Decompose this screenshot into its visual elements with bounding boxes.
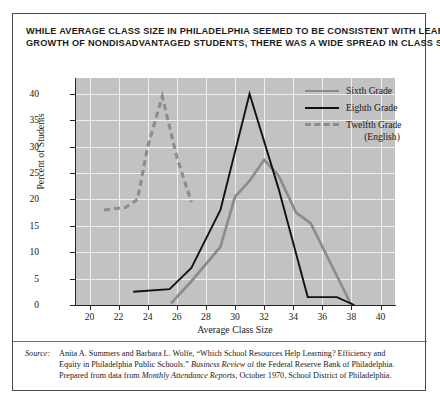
y-axis-tick-label: 30 [0,141,39,152]
legend-item: Eighth Grade [305,99,427,116]
source-text: Anita A. Summers and Barbara L. Wolfe, “… [59,348,394,382]
y-axis-tick-label: 5 [0,273,39,284]
x-axis-tick-label: 22 [104,311,134,322]
x-axis-tick [293,306,294,310]
chart-title-line-1: WHILE AVERAGE CLASS SIZE IN PHILADELPHIA… [26,25,418,37]
chart-area: 0510152025303540 2022242628303234363840 … [13,60,427,336]
series-line [104,96,191,210]
source-line-1: Anita A. Summers and Barbara L. Wolfe, “… [59,348,394,359]
x-axis-tick [322,306,323,310]
x-axis-tick-label: 34 [278,311,308,322]
x-axis-tick-label: 20 [75,311,105,322]
source-line-3: Prepared from data from Monthly Attendan… [59,370,394,381]
legend-item-label: Eighth Grade [346,102,397,113]
x-axis-tick-label: 26 [162,311,192,322]
legend: Sixth GradeEighth GradeTwelfth Grade(Eng… [305,82,427,142]
x-axis-tick [381,306,382,310]
y-axis-tick-label: 25 [0,167,39,178]
legend-item-label: Sixth Grade [346,85,392,96]
source-label: Source: [25,348,59,359]
x-axis-tick-label: 36 [307,311,337,322]
y-axis-tick-label: 20 [0,193,39,204]
y-axis-tick-label: 15 [0,220,39,231]
chart-title-line-2: GROWTH OF NONDISADVANTAGED STUDENTS, THE… [26,37,418,49]
x-axis-tick-label: 32 [249,311,279,322]
y-axis-tick-label: 40 [0,88,39,99]
x-axis-tick [119,306,120,310]
chart-title: WHILE AVERAGE CLASS SIZE IN PHILADELPHIA… [26,25,418,50]
y-axis-tick [70,305,75,306]
y-axis-tick-label: 35 [0,114,39,125]
x-axis-tick [264,306,265,310]
legend-swatch-icon [305,86,339,96]
source-note: Source: Anita A. Summers and Barbara L. … [13,341,427,382]
legend-swatch-icon [305,120,339,130]
x-axis-tick [206,306,207,310]
x-axis-tick-label: 24 [133,311,163,322]
x-axis-tick-label: 38 [336,311,366,322]
x-axis-tick-label: 28 [191,311,221,322]
legend-item-label: Twelfth Grade [346,119,402,130]
legend-item: Sixth Grade [305,82,427,99]
x-axis-tick-label: 40 [366,311,396,322]
y-axis-tick-label: 10 [0,246,39,257]
legend-swatch-icon [305,103,339,113]
x-axis-tick-label: 30 [220,311,250,322]
x-axis-title: Average Class Size [75,324,395,335]
legend-sublabel: (English) [339,131,425,142]
x-axis-tick [351,306,352,310]
y-axis-title: Percent of Students [35,97,46,207]
x-axis-tick [148,306,149,310]
x-axis-tick [177,306,178,310]
source-line-2: Equity in Philadelphia Public Schools.” … [59,359,394,370]
x-axis-tick [90,306,91,310]
figure-panel: WHILE AVERAGE CLASS SIZE IN PHILADELPHIA… [12,13,426,391]
x-axis-tick [235,306,236,310]
series-line [171,160,351,305]
y-axis-tick-label: 0 [0,299,39,310]
